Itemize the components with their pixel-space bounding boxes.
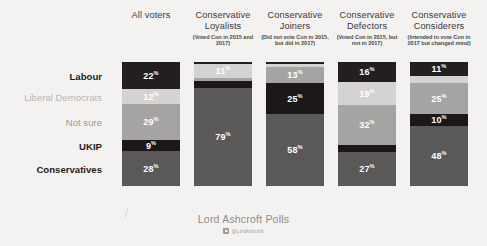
column-title: Conservative Loyalists <box>189 10 257 31</box>
column-header-all-voters: All voters <box>115 10 187 58</box>
segment-value-label: 11% <box>432 64 447 74</box>
percent-sign: % <box>298 93 303 99</box>
column-title: Conservative Defectors <box>333 10 401 31</box>
stacked-bar-chart: All voters Conservative Loyalists (Voted… <box>0 0 487 246</box>
twitter-handle-label: @LordAshcroft <box>232 229 264 234</box>
bar-segment-conservatives[interactable]: 28% <box>122 151 180 186</box>
segment-value-label: 25% <box>287 94 302 104</box>
bar-segment-conservatives[interactable]: 27% <box>338 152 396 185</box>
stacked-bar[interactable]: 11%25%10%48% <box>410 62 468 186</box>
percent-sign: % <box>370 119 375 125</box>
bar-segment-labour[interactable]: 22% <box>122 62 180 89</box>
bar-segment-labour[interactable]: 11% <box>410 62 468 76</box>
column-headers: All voters Conservative Loyalists (Voted… <box>115 10 475 58</box>
segment-value-label: 28% <box>143 164 158 174</box>
plot-area: 22%12%29%9%28%11%79%13%25%58%16%19%32%27… <box>115 62 475 186</box>
percent-sign: % <box>370 66 375 72</box>
segment-value-label: 32% <box>359 120 374 130</box>
segment-value-label: 22% <box>143 71 158 81</box>
percent-sign: % <box>225 65 230 71</box>
row-label-ukip: UKIP <box>79 140 102 151</box>
column-title: Conservative Considerers <box>405 10 473 31</box>
column-header-conservative-loyalists: Conservative Loyalists (Voted Con in 201… <box>187 10 259 58</box>
percent-sign: % <box>154 116 159 122</box>
bar-column-conservative-joiners: 13%25%58% <box>259 62 331 186</box>
segment-value-label: 19% <box>359 89 374 99</box>
brand-name: Lord Ashcroft Polls <box>0 213 487 225</box>
bar-segment-not-sure[interactable]: 25% <box>410 83 468 114</box>
chart-footer: Lord Ashcroft Polls @LordAshcroft <box>0 213 487 234</box>
percent-sign: % <box>154 91 159 97</box>
segment-value-label: 27% <box>359 164 374 174</box>
stacked-bar[interactable]: 16%19%32%27% <box>338 62 396 186</box>
bar-column-conservative-loyalists: 11%79% <box>187 62 259 186</box>
percent-sign: % <box>442 114 447 120</box>
segment-value-label: 16% <box>359 67 374 77</box>
stacked-bar[interactable]: 13%25%58% <box>266 62 324 186</box>
bar-segment-ukip[interactable]: 9% <box>122 140 180 151</box>
segment-value-label: 79% <box>215 132 230 142</box>
column-title: Conservative Joiners <box>261 10 329 31</box>
segment-value-label: 58% <box>287 145 302 155</box>
bar-segment-not-sure[interactable]: 32% <box>338 105 396 145</box>
percent-sign: % <box>154 163 159 169</box>
percent-sign: % <box>298 144 303 150</box>
bar-segment-liberal-democrats[interactable] <box>410 76 468 83</box>
bar-segment-ukip[interactable] <box>194 81 252 88</box>
segment-value-label: 48% <box>431 151 446 161</box>
column-subtitle: (Voted Con in 2015 and 2017) <box>189 34 257 47</box>
percent-sign: % <box>442 150 447 156</box>
row-label-legend: LabourLiberal DemocratsNot sureUKIPConse… <box>0 62 110 186</box>
bar-column-conservative-defectors: 16%19%32%27% <box>331 62 403 186</box>
twitter-badge-icon <box>223 228 229 234</box>
bar-segment-liberal-democrats[interactable]: 11% <box>194 64 252 78</box>
bar-segment-conservatives[interactable]: 79% <box>194 88 252 186</box>
column-title: All voters <box>132 10 171 21</box>
segment-value-label: 11% <box>216 66 231 76</box>
percent-sign: % <box>298 69 303 75</box>
row-label-labour: Labour <box>69 70 102 81</box>
percent-sign: % <box>370 163 375 169</box>
bar-column-conservative-considerers: 11%25%10%48% <box>403 62 475 186</box>
bar-segment-ukip[interactable]: 10% <box>410 114 468 126</box>
row-label-conservatives: Conservatives <box>36 163 102 174</box>
column-header-conservative-defectors: Conservative Defectors (Voted Con in 201… <box>331 10 403 58</box>
percent-sign: % <box>442 93 447 99</box>
column-subtitle: (Intended to vote Con in 2017 but change… <box>405 34 473 47</box>
bar-segment-ukip[interactable] <box>338 145 396 152</box>
segment-value-label: 25% <box>431 94 446 104</box>
column-subtitle: (Did not vote Con in 2015, but did in 20… <box>261 34 329 47</box>
percent-sign: % <box>441 63 446 69</box>
bar-column-all-voters: 22%12%29%9%28% <box>115 62 187 186</box>
segment-value-label: 12% <box>143 92 158 102</box>
bar-segment-conservatives[interactable]: 48% <box>410 126 468 186</box>
percent-sign: % <box>151 140 156 146</box>
social-handle: @LordAshcroft <box>0 228 487 234</box>
segment-value-label: 29% <box>143 117 158 127</box>
percent-sign: % <box>154 70 159 76</box>
segment-value-label: 10% <box>431 115 446 125</box>
bar-segment-conservatives[interactable]: 58% <box>266 114 324 186</box>
row-label-liberal-democrats: Liberal Democrats <box>24 91 102 102</box>
column-header-conservative-joiners: Conservative Joiners (Did not vote Con i… <box>259 10 331 58</box>
bar-segment-liberal-democrats[interactable]: 12% <box>122 89 180 104</box>
bar-segment-liberal-democrats[interactable]: 19% <box>338 82 396 106</box>
segment-value-label: 13% <box>287 70 302 80</box>
bar-segment-ukip[interactable]: 25% <box>266 83 324 114</box>
percent-sign: % <box>370 88 375 94</box>
bar-segment-not-sure[interactable]: 13% <box>266 67 324 83</box>
bar-segment-not-sure[interactable]: 29% <box>122 104 180 140</box>
bar-segment-labour[interactable]: 16% <box>338 62 396 82</box>
column-header-conservative-considerers: Conservative Considerers (Intended to vo… <box>403 10 475 58</box>
stacked-bar[interactable]: 22%12%29%9%28% <box>122 62 180 186</box>
percent-sign: % <box>226 131 231 137</box>
stacked-bar[interactable]: 11%79% <box>194 62 252 186</box>
segment-value-label: 9% <box>146 141 156 151</box>
row-label-not-sure: Not sure <box>66 117 102 128</box>
column-subtitle: (Voted Con in 2015, but not in 2017) <box>333 34 401 47</box>
